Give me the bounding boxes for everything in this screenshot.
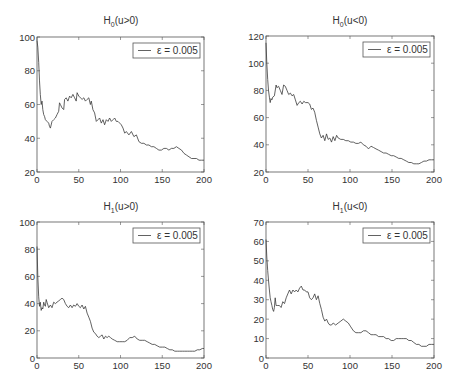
- x-tick-label: 200: [426, 174, 442, 185]
- legend-label: ε = 0.005: [387, 230, 428, 241]
- y-tick-label: 80: [24, 244, 35, 255]
- y-tick-label: 0: [30, 353, 35, 364]
- data-line: [37, 247, 204, 352]
- y-tick-label: 50: [253, 255, 264, 266]
- data-line: [266, 240, 434, 347]
- y-tick-label: 20: [253, 314, 264, 325]
- legend-label: ε = 0.005: [387, 44, 428, 55]
- y-tick-label: 60: [253, 112, 264, 123]
- y-tick-label: 40: [24, 298, 35, 309]
- x-tick-label: 150: [384, 360, 400, 371]
- x-tick-label: 50: [73, 174, 84, 185]
- subplot-h0-u-negative: H0(u<0) 05010015020020406080100120 ε = 0…: [248, 15, 442, 185]
- y-tick-label: 60: [253, 236, 264, 247]
- x-tick-label: 0: [34, 174, 39, 185]
- y-tick-label: 20: [253, 167, 264, 178]
- x-tick-label: 150: [154, 360, 170, 371]
- y-tick-label: 40: [253, 139, 264, 150]
- y-tick-label: 70: [253, 217, 264, 228]
- x-tick-label: 0: [263, 174, 268, 185]
- legend: ε = 0.005: [133, 43, 200, 58]
- x-tick-label: 50: [303, 360, 314, 371]
- x-tick-label: 50: [73, 360, 84, 371]
- x-tick-label: 200: [196, 360, 212, 371]
- x-tick-label: 150: [154, 174, 170, 185]
- legend-label: ε = 0.005: [157, 45, 198, 56]
- x-tick-label: 200: [426, 360, 442, 371]
- y-tick-label: 100: [19, 32, 35, 43]
- y-tick-label: 0: [259, 353, 264, 364]
- y-tick-label: 80: [253, 85, 264, 96]
- y-tick-label: 120: [248, 31, 264, 42]
- x-tick-label: 50: [303, 174, 314, 185]
- x-tick-label: 100: [342, 174, 358, 185]
- y-tick-label: 40: [253, 275, 264, 286]
- y-tick-label: 30: [253, 294, 264, 305]
- subplot-h1-u-negative: H1(u<0) 050100150200010203040506070 ε = …: [253, 201, 442, 371]
- y-tick-label: 10: [253, 333, 264, 344]
- legend: ε = 0.005: [363, 228, 430, 243]
- x-tick-label: 0: [34, 360, 39, 371]
- x-tick-label: 100: [113, 360, 129, 371]
- y-tick-label: 80: [24, 65, 35, 76]
- y-tick-label: 20: [24, 167, 35, 178]
- subplot-title: H1(u>0): [104, 201, 139, 214]
- y-tick-label: 100: [19, 217, 35, 228]
- subplot-title: H0(u<0): [333, 15, 368, 28]
- data-line: [266, 43, 434, 164]
- x-tick-label: 100: [342, 360, 358, 371]
- y-tick-label: 60: [24, 99, 35, 110]
- x-tick-label: 150: [384, 174, 400, 185]
- y-tick-label: 20: [24, 325, 35, 336]
- x-tick-label: 100: [113, 174, 129, 185]
- y-tick-label: 40: [24, 133, 35, 144]
- subplot-title: H1(u<0): [333, 201, 368, 214]
- legend: ε = 0.005: [363, 42, 430, 57]
- legend: ε = 0.005: [133, 228, 200, 243]
- x-tick-label: 0: [263, 360, 268, 371]
- subplot-title: H0(u>0): [104, 15, 139, 28]
- x-tick-label: 200: [196, 174, 212, 185]
- subplot-h1-u-positive: H1(u>0) 050100150200020406080100 ε = 0.0…: [19, 201, 212, 371]
- subplot-h0-u-positive: H0(u>0) 05010015020020406080100 ε = 0.00…: [19, 15, 212, 185]
- legend-label: ε = 0.005: [157, 230, 198, 241]
- y-tick-label: 60: [24, 271, 35, 282]
- figure: H0(u>0) 05010015020020406080100 ε = 0.00…: [0, 0, 459, 392]
- y-tick-label: 100: [248, 58, 264, 69]
